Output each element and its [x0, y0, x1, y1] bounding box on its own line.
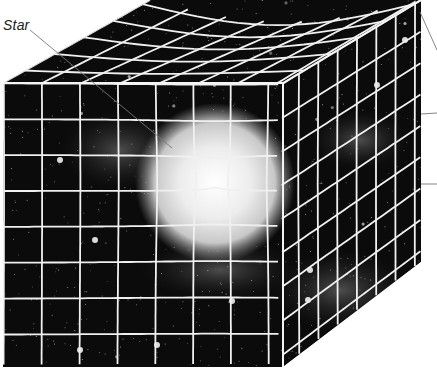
star-icon: [135, 103, 295, 263]
star-label: Star: [3, 17, 29, 33]
space-background: [0, 0, 437, 373]
spacetime-cube-diagram: Star: [0, 0, 437, 373]
right-leader-line-1: [420, 12, 437, 50]
cube-illustration: [0, 0, 437, 373]
right-leader-line-2: [421, 113, 437, 114]
